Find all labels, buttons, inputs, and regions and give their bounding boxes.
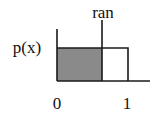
x-tick-1: 1 (123, 94, 132, 113)
marker-label: ran (92, 3, 114, 22)
shaded-area (57, 48, 102, 81)
uniform-density-diagram: ran p(x) 0 1 (0, 0, 157, 116)
x-tick-0: 0 (53, 94, 62, 113)
y-axis-label: p(x) (13, 38, 41, 57)
